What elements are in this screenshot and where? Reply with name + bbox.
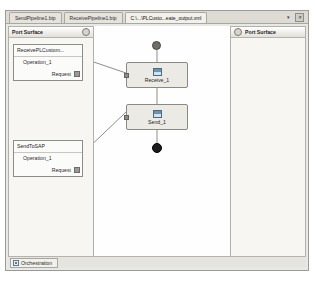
send-shape[interactable]: Send_1: [126, 104, 188, 130]
left-port-surface-header: Port Surface: [9, 27, 93, 38]
receive-shape[interactable]: Receive_1: [126, 62, 188, 88]
collapse-icon[interactable]: [82, 28, 90, 36]
left-port-surface-body: ReceivePLCustom... Operation_1 Request S…: [9, 38, 93, 267]
tab-receive-pipeline[interactable]: ReceivePipeline1.btp: [64, 12, 123, 23]
tab-orchestration[interactable]: Orchestration: [10, 258, 58, 268]
left-port-surface-title: Port Surface: [12, 29, 43, 35]
tab-send-pipeline[interactable]: SendPipeline1.btp: [9, 12, 62, 23]
left-port-surface-panel: Port Surface ReceivePLCustom... Operatio…: [8, 26, 94, 268]
document-tab-strip: SendPipeline1.btp ReceivePipeline1.btp C…: [6, 11, 308, 24]
receive-shape-left-port[interactable]: [124, 73, 129, 78]
port-connector-handle[interactable]: [74, 167, 80, 173]
chevron-down-icon[interactable]: ▾: [285, 14, 292, 21]
receive-shape-icon: [153, 68, 162, 76]
right-port-surface-header: Port Surface: [231, 27, 305, 38]
port-shape-send[interactable]: SendToSAP Operation_1 Request: [13, 140, 83, 177]
tab-orchestration-label: Orchestration: [21, 258, 52, 268]
right-port-surface-panel: Port Surface: [230, 26, 306, 268]
orchestration-canvas[interactable]: Receive_1 Send_1: [94, 26, 230, 268]
right-port-surface-title: Port Surface: [245, 29, 276, 35]
designer-work-area: Port Surface ReceivePLCustom... Operatio…: [6, 24, 308, 270]
send-shape-icon: [153, 110, 162, 118]
port-operation: Operation_1: [14, 57, 82, 68]
port-message-row[interactable]: Request: [14, 164, 82, 176]
right-port-surface-body[interactable]: [231, 38, 305, 267]
port-operation: Operation_1: [14, 153, 82, 164]
port-message-row[interactable]: Request: [14, 68, 82, 80]
send-shape-label: Send_1: [148, 119, 166, 125]
tab-strip-buttons: ▾ ✕: [285, 13, 308, 23]
port-title: SendToSAP: [14, 141, 82, 153]
send-shape-left-port[interactable]: [124, 115, 129, 120]
collapse-icon[interactable]: [234, 28, 242, 36]
close-icon[interactable]: ✕: [295, 13, 304, 22]
tab-output-xml[interactable]: C:\...\PLCusto...eate_output.xml: [125, 12, 208, 23]
port-title: ReceivePLCustom...: [14, 45, 82, 57]
start-shape[interactable]: [152, 41, 161, 50]
orchestration-icon: [13, 260, 19, 266]
port-message-label: Request: [23, 164, 74, 176]
receive-shape-label: Receive_1: [145, 77, 170, 83]
designer-bottom-tab-strip: Orchestration: [8, 256, 306, 268]
port-connector-handle[interactable]: [74, 71, 80, 77]
port-shape-receive[interactable]: ReceivePLCustom... Operation_1 Request: [13, 44, 83, 81]
port-message-label: Request: [23, 68, 74, 80]
end-shape[interactable]: [152, 143, 162, 153]
orchestration-designer-window: SendPipeline1.btp ReceivePipeline1.btp C…: [5, 10, 309, 271]
